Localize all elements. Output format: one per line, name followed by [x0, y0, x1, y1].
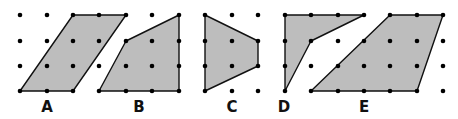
grid-dot: [124, 13, 129, 18]
grid-dot: [203, 89, 208, 94]
grid-dot: [71, 39, 76, 44]
grid-dot: [415, 39, 420, 44]
labels-layer: ABCDE: [41, 98, 369, 116]
grid-dot: [97, 39, 102, 44]
grid-dot: [388, 39, 393, 44]
grid-dot: [150, 64, 155, 69]
dot-grid-polygons-figure: ABCDE: [0, 0, 458, 119]
grid-dot: [124, 89, 129, 94]
grid-dot: [283, 13, 288, 18]
polygons-layer: [20, 15, 443, 91]
shape-label-e: E: [359, 98, 369, 116]
grid-dot: [124, 39, 129, 44]
grid-dot: [388, 64, 393, 69]
grid-dot: [362, 13, 367, 18]
grid-dot: [45, 13, 50, 18]
grid-dot: [18, 64, 23, 69]
grid-dot: [256, 89, 261, 94]
grid-dot: [283, 64, 288, 69]
grid-dot: [388, 89, 393, 94]
grid-dot: [309, 39, 314, 44]
grid-dot: [415, 13, 420, 18]
grid-dot: [177, 39, 182, 44]
grid-dot: [309, 13, 314, 18]
grid-dot: [256, 39, 261, 44]
grid-dot: [177, 89, 182, 94]
grid-dot: [177, 13, 182, 18]
shape-label-b: B: [133, 98, 144, 116]
grid-dot: [18, 13, 23, 18]
grid-dot: [362, 89, 367, 94]
polygon-c: [205, 15, 258, 91]
grid-dot: [362, 39, 367, 44]
grid-dot: [415, 89, 420, 94]
grid-dot: [283, 39, 288, 44]
grid-dot: [230, 39, 235, 44]
shape-label-c: C: [226, 98, 237, 116]
grid-dot: [97, 64, 102, 69]
grid-dot: [203, 13, 208, 18]
grid-dot: [45, 39, 50, 44]
grid-dot: [441, 13, 446, 18]
grid-dot: [150, 13, 155, 18]
shape-label-d: D: [278, 98, 290, 116]
grid-dot: [336, 39, 341, 44]
grid-dot: [336, 13, 341, 18]
grid-dot: [71, 89, 76, 94]
grid-dot: [388, 13, 393, 18]
grid-dot: [362, 64, 367, 69]
grid-dot: [97, 13, 102, 18]
grid-dot: [230, 64, 235, 69]
grid-dot: [256, 13, 261, 18]
grid-dot: [45, 64, 50, 69]
shape-label-a: A: [41, 98, 53, 116]
grid-dot: [336, 64, 341, 69]
grid-dot: [18, 89, 23, 94]
grid-dot: [230, 13, 235, 18]
grid-dot: [415, 64, 420, 69]
grid-dot: [71, 64, 76, 69]
grid-dot: [230, 89, 235, 94]
grid-dot: [309, 64, 314, 69]
grid-dot: [441, 64, 446, 69]
grid-dot: [45, 89, 50, 94]
grid-dot: [150, 39, 155, 44]
grid-dot: [441, 89, 446, 94]
grid-dot: [177, 64, 182, 69]
grid-dot: [97, 89, 102, 94]
grid-dot: [71, 13, 76, 18]
grid-dot: [124, 64, 129, 69]
grid-dot: [256, 64, 261, 69]
grid-dot: [203, 64, 208, 69]
grid-dot: [309, 89, 314, 94]
grid-dot: [203, 39, 208, 44]
grid-dot: [283, 89, 288, 94]
grid-dot: [336, 89, 341, 94]
grid-dot: [18, 39, 23, 44]
grid-dot: [150, 89, 155, 94]
grid-dot: [441, 39, 446, 44]
